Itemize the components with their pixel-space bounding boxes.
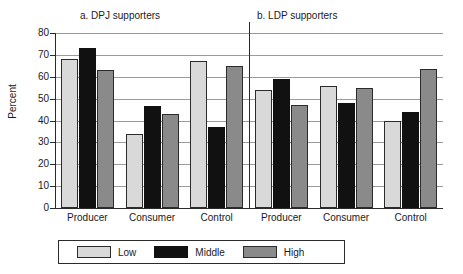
y-axis-tick bbox=[50, 208, 55, 209]
y-axis-tick-label: 60 bbox=[3, 72, 49, 82]
legend-swatch-high bbox=[243, 246, 277, 258]
y-axis-tick bbox=[50, 142, 55, 143]
bar-producer-low bbox=[255, 90, 272, 208]
chart-container: a. DPJ supporters b. LDP supporters Perc… bbox=[0, 0, 463, 274]
y-axis-tick-label: 30 bbox=[3, 137, 49, 147]
legend-label-middle: Middle bbox=[195, 247, 224, 258]
y-axis-tick-label: 40 bbox=[3, 116, 49, 126]
y-axis-tick bbox=[50, 99, 55, 100]
bar-control-middle bbox=[402, 112, 419, 208]
bar-consumer-high bbox=[356, 88, 373, 208]
bar-producer-high bbox=[97, 70, 114, 208]
x-axis-label-control: Control bbox=[201, 212, 233, 223]
y-axis-tick-label: 80 bbox=[3, 28, 49, 38]
legend-label-low: Low bbox=[118, 247, 136, 258]
x-axis-label-control: Control bbox=[395, 212, 427, 223]
panel-title-ldp: b. LDP supporters bbox=[257, 10, 337, 21]
y-axis-tick bbox=[50, 55, 55, 56]
bar-consumer-high bbox=[162, 114, 179, 208]
x-axis-label-consumer: Consumer bbox=[323, 212, 369, 223]
y-axis-line bbox=[55, 33, 56, 209]
y-axis-tick bbox=[50, 33, 55, 34]
panel-divider bbox=[249, 22, 250, 209]
y-axis-tick-label: 50 bbox=[3, 94, 49, 104]
y-axis-tick bbox=[50, 77, 55, 78]
legend-swatch-middle bbox=[154, 246, 188, 258]
bar-control-low bbox=[190, 61, 207, 208]
y-axis-tick bbox=[50, 164, 55, 165]
legend-item-high: High bbox=[243, 246, 305, 258]
y-axis-tick-label: 70 bbox=[3, 50, 49, 60]
bar-producer-low bbox=[61, 59, 78, 208]
bar-producer-middle bbox=[273, 79, 290, 208]
y-axis-tick-label: 10 bbox=[3, 181, 49, 191]
bar-control-high bbox=[420, 69, 437, 208]
bar-consumer-low bbox=[320, 86, 337, 209]
x-axis-label-consumer: Consumer bbox=[129, 212, 175, 223]
bar-control-middle bbox=[208, 127, 225, 208]
bar-producer-middle bbox=[79, 48, 96, 208]
y-axis-tick-label: 20 bbox=[3, 159, 49, 169]
legend-item-middle: Middle bbox=[154, 246, 224, 258]
legend: Low Middle High bbox=[58, 240, 345, 264]
bar-consumer-low bbox=[126, 134, 143, 208]
y-axis-tick bbox=[50, 121, 55, 122]
bar-control-low bbox=[384, 121, 401, 209]
x-axis-label-producer: Producer bbox=[261, 212, 302, 223]
y-axis-tick bbox=[50, 186, 55, 187]
panel-title-dpj: a. DPJ supporters bbox=[80, 10, 160, 21]
legend-swatch-low bbox=[77, 246, 111, 258]
y-axis-tick-label: 0 bbox=[3, 203, 49, 213]
legend-label-high: High bbox=[284, 247, 305, 258]
bar-consumer-middle bbox=[144, 106, 161, 208]
bar-control-high bbox=[226, 66, 243, 208]
x-axis-label-producer: Producer bbox=[67, 212, 108, 223]
legend-item-low: Low bbox=[77, 246, 136, 258]
bar-consumer-middle bbox=[338, 103, 355, 208]
bar-producer-high bbox=[291, 105, 308, 208]
y-axis-tick-labels: 01020304050607080 bbox=[0, 0, 49, 274]
